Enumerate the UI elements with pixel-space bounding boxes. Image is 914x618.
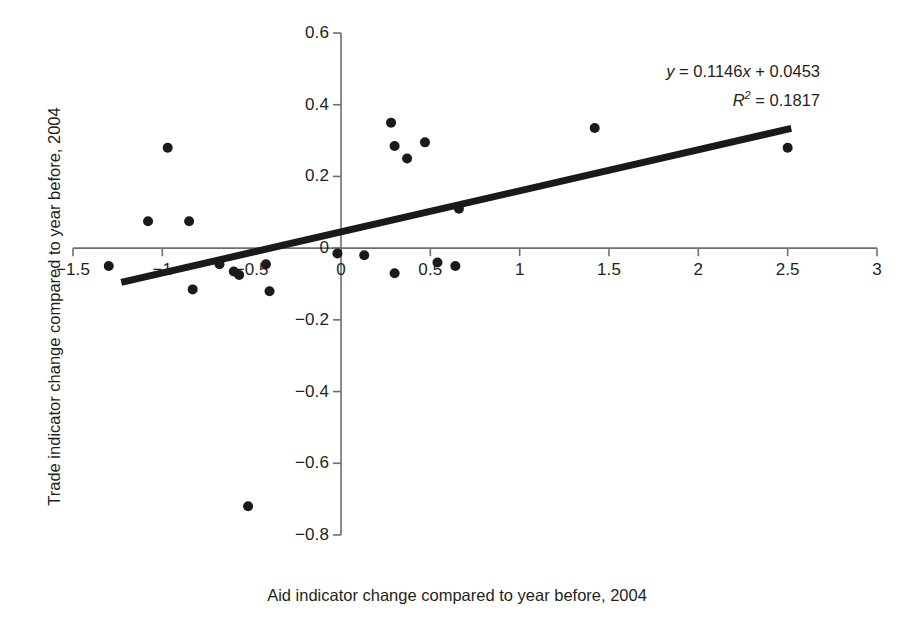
x-tick-label: 1 bbox=[515, 260, 525, 280]
x-tick-label: 0.5 bbox=[418, 260, 442, 280]
data-point bbox=[390, 141, 400, 151]
y-tick-label: 0 bbox=[319, 238, 329, 258]
data-point bbox=[188, 284, 198, 294]
data-point bbox=[590, 123, 600, 133]
data-point bbox=[184, 216, 194, 226]
y-tick-label: 0.2 bbox=[305, 166, 329, 186]
data-point bbox=[359, 250, 369, 260]
equation-x-symbol: x bbox=[742, 62, 750, 80]
x-tick-label: −0.5 bbox=[235, 260, 269, 280]
equation-body: = 0.1146 bbox=[674, 62, 742, 80]
x-tick-label: 2 bbox=[694, 260, 704, 280]
x-tick-label: 2.5 bbox=[776, 260, 800, 280]
x-tick-label: 3 bbox=[872, 260, 882, 280]
r-symbol: R bbox=[733, 91, 745, 109]
data-point bbox=[332, 249, 342, 259]
regression-equation-annotation: y = 0.1146x + 0.0453 bbox=[666, 62, 820, 81]
x-tick-label: −1 bbox=[153, 260, 173, 280]
x-tick-label: 1.5 bbox=[597, 260, 621, 280]
data-points bbox=[104, 118, 793, 512]
data-point bbox=[163, 143, 173, 153]
data-point bbox=[402, 154, 412, 164]
data-point bbox=[215, 259, 225, 269]
data-point bbox=[243, 501, 253, 511]
data-point bbox=[390, 268, 400, 278]
x-axis-title: Aid indicator change compared to year be… bbox=[0, 586, 914, 605]
equation-tail: + 0.0453 bbox=[751, 62, 820, 80]
y-axis-title: Trade indicator change compared to year … bbox=[45, 72, 64, 542]
data-point bbox=[454, 204, 464, 214]
data-point bbox=[104, 261, 114, 271]
data-point bbox=[265, 286, 275, 296]
data-point bbox=[420, 137, 430, 147]
data-point bbox=[386, 118, 396, 128]
x-tick-label: 0 bbox=[336, 260, 346, 280]
data-point bbox=[450, 261, 460, 271]
y-tick-label: −0.4 bbox=[295, 382, 329, 402]
scatter-plot-figure: −1.5−1−0.500.511.522.53 0.60.40.20−0.2−0… bbox=[0, 0, 914, 618]
data-point bbox=[143, 216, 153, 226]
r-value: = 0.1817 bbox=[751, 91, 820, 109]
y-tick-label: −0.8 bbox=[295, 525, 329, 545]
y-tick-label: −0.2 bbox=[295, 310, 329, 330]
y-tick-label: 0.6 bbox=[305, 23, 329, 43]
y-tick-label: 0.4 bbox=[305, 95, 329, 115]
data-point bbox=[783, 143, 793, 153]
y-tick-label: −0.6 bbox=[295, 453, 329, 473]
r-squared-annotation: R2 = 0.1817 bbox=[733, 89, 820, 110]
